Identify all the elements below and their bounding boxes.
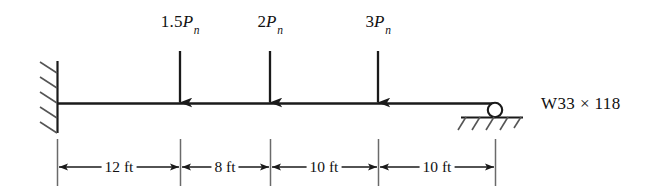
- roller-ground-hatching: [458, 117, 521, 130]
- load-1-coefficient: 1.5: [161, 12, 183, 31]
- beam-diagram-figure: 1.5Pn 2Pn 3Pn 12 ft 8 ft 10 ft 10 ft W33…: [0, 0, 665, 189]
- beam-section-label: W33 × 118: [541, 94, 621, 114]
- load-3-symbol: P: [374, 12, 385, 31]
- load-label-3: 3Pn: [365, 12, 390, 33]
- load-2-subscript: n: [277, 24, 283, 36]
- load-label-2: 2Pn: [257, 12, 282, 33]
- dimension-label-8ft: 8 ft: [211, 159, 238, 175]
- load-1-subscript: n: [194, 24, 200, 36]
- load-3-subscript: n: [385, 24, 391, 36]
- load-1-symbol: P: [183, 12, 194, 31]
- wall-hatching: [40, 62, 57, 133]
- roller-circle-icon: [488, 103, 502, 117]
- fixed-wall-support: [40, 61, 58, 133]
- load-2-symbol: P: [266, 12, 277, 31]
- dimension-label-10ft-b: 10 ft: [420, 159, 455, 175]
- load-label-1: 1.5Pn: [161, 12, 199, 33]
- roller-support: [458, 103, 523, 130]
- load-2-coefficient: 2: [257, 12, 266, 31]
- load-3-coefficient: 3: [365, 12, 374, 31]
- dimension-label-12ft: 12 ft: [102, 159, 137, 175]
- dimension-label-10ft-a: 10 ft: [307, 159, 342, 175]
